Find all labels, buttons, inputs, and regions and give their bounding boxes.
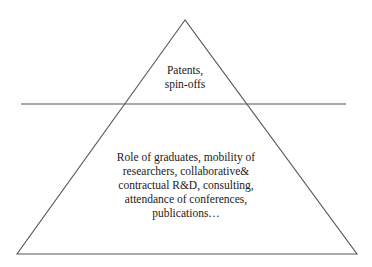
top-label-line: spin-offs <box>135 77 235 91</box>
bottom-label-line: publications… <box>86 206 286 220</box>
bottom-label-line: Role of graduates, mobility of <box>86 150 286 164</box>
bottom-label-line: researchers, collaborative& <box>86 164 286 178</box>
top-label-line: Patents, <box>135 63 235 77</box>
pyramid-graphic <box>0 0 372 267</box>
top-section-label: Patents, spin-offs <box>135 63 235 91</box>
pyramid-diagram: Patents, spin-offs Role of graduates, mo… <box>0 0 372 267</box>
bottom-section-label: Role of graduates, mobility of researche… <box>86 150 286 220</box>
bottom-label-line: attendance of conferences, <box>86 192 286 206</box>
bottom-label-line: contractual R&D, consulting, <box>86 178 286 192</box>
